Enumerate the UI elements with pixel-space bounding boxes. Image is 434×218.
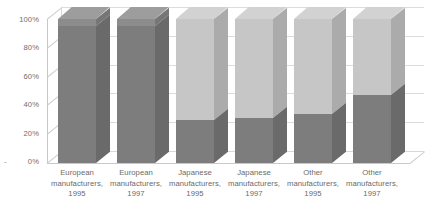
- bar-front-face: [176, 120, 214, 163]
- y-axis-tick-60: 60%: [5, 72, 39, 81]
- floor-right-edge: [410, 151, 425, 164]
- bar-segment-upper: [294, 19, 332, 114]
- bar-side-face: [391, 8, 405, 96]
- bar-front-face: [235, 118, 273, 163]
- bar-side-face: [214, 8, 228, 120]
- bar-side-face: [332, 8, 346, 114]
- bar-front-face: [235, 19, 273, 118]
- label-line-3: 1997: [329, 189, 415, 200]
- bar-front-face: [353, 95, 391, 163]
- y-axis-tick-40: 40%: [5, 100, 39, 109]
- bar-front-face: [117, 26, 155, 163]
- bar-front-face: [58, 19, 96, 26]
- bar-front-face: [294, 114, 332, 163]
- bar-segment-lower: [176, 120, 214, 163]
- bar-side-face: [273, 107, 287, 163]
- bar-segment-lower: [58, 26, 96, 163]
- bar-front-face: [353, 19, 391, 95]
- bar-segment-upper: [235, 19, 273, 118]
- stacked-column-chart: - 100% 80% 60% 40% 20% 0%: [0, 0, 434, 218]
- bar-side-face: [273, 8, 287, 119]
- x-axis-front-line: [47, 163, 410, 164]
- bar-side-face: [214, 108, 228, 163]
- x-axis-label-other-1997: Other manufacturers, 1997: [329, 168, 415, 200]
- bar-side-face: [332, 103, 346, 163]
- bar-front-face: [294, 19, 332, 114]
- bar-segment-upper: [353, 19, 391, 95]
- y-axis-tick-100: 100%: [5, 15, 39, 24]
- bar-front-face: [117, 19, 155, 26]
- bar-segment-upper: [176, 19, 214, 120]
- y-axis-tick-0: 0%: [5, 157, 39, 166]
- bar-segment-lower: [353, 95, 391, 163]
- bar-segment-upper: [58, 19, 96, 26]
- bar-segment-upper: [117, 19, 155, 26]
- bar-side-face: [155, 15, 169, 163]
- y-axis-front-line: [47, 19, 48, 163]
- bar-side-face: [391, 84, 405, 163]
- y-axis-tick-80: 80%: [5, 43, 39, 52]
- bar-side-face: [96, 15, 110, 163]
- bar-front-face: [58, 26, 96, 163]
- label-line-2: manufacturers,: [329, 179, 415, 190]
- bar-segment-lower: [117, 26, 155, 163]
- bar-segment-lower: [294, 114, 332, 163]
- bar-segment-lower: [235, 118, 273, 163]
- bar-front-face: [176, 19, 214, 120]
- label-line-1: Other: [329, 168, 415, 179]
- y-axis-tick-20: 20%: [5, 129, 39, 138]
